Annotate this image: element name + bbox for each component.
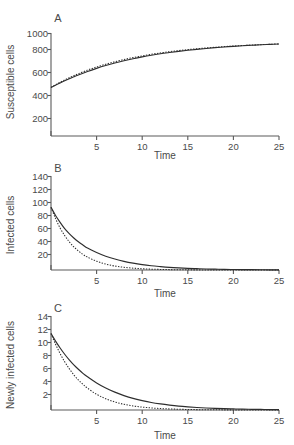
panel-a-ytick-400: 400 — [32, 90, 48, 101]
panel-a-xtick-15: 15 — [183, 141, 194, 152]
panel-b-xtick-20: 20 — [228, 275, 239, 286]
panel-c-ytick-14: 14 — [37, 311, 48, 322]
panel-a-letter: A — [54, 12, 62, 24]
panel-c-curve-dotted — [51, 334, 279, 410]
panel-c-ytick-8: 8 — [43, 350, 48, 361]
panel-b-ytick-80: 80 — [37, 210, 48, 221]
panel-b-plot: B Infected cells 20 40 60 80 100 120 140 — [0, 155, 294, 300]
panel-a-ytick-800: 800 — [32, 44, 48, 55]
panel-a: A Susceptible cells 200 400 600 800 1000 — [0, 0, 294, 160]
panel-b-curve-solid — [51, 207, 279, 270]
panel-a-xtick-20: 20 — [228, 141, 239, 152]
panel-a-y-axis-title: Susceptible cells — [5, 45, 16, 119]
panel-b-ytick-120: 120 — [32, 184, 48, 195]
panel-a-ytick-1000: 1000 — [27, 28, 48, 39]
panel-b-ytick-100: 100 — [32, 197, 48, 208]
panel-c-x-axis-title: Time — [154, 430, 176, 441]
panel-c-plot: C Newly infected cells 2 4 6 8 10 12 14 — [0, 295, 294, 445]
panel-c-xtick-15: 15 — [183, 415, 194, 426]
panel-c-xtick-20: 20 — [228, 415, 239, 426]
panel-c-y-axis-title: Newly infected cells — [5, 321, 16, 409]
panel-b-curve-dotted — [51, 207, 279, 270]
panel-b-letter: B — [54, 162, 61, 174]
panel-a-curve-solid — [51, 44, 279, 87]
panel-a-ytick-200: 200 — [32, 113, 48, 124]
panel-c-ytick-4: 4 — [43, 376, 48, 387]
panel-b-ytick-20: 20 — [37, 249, 48, 260]
panel-c: C Newly infected cells 2 4 6 8 10 12 14 — [0, 295, 294, 445]
panel-b-xtick-25: 25 — [274, 275, 285, 286]
panel-c-letter: C — [54, 302, 62, 314]
panel-a-xtick-25: 25 — [274, 141, 285, 152]
panel-b-xtick-15: 15 — [183, 275, 194, 286]
panel-b: B Infected cells 20 40 60 80 100 120 140 — [0, 155, 294, 300]
panel-c-xtick-25: 25 — [274, 415, 285, 426]
panel-c-ytick-2: 2 — [43, 389, 48, 400]
panel-b-xtick-10: 10 — [137, 275, 148, 286]
panel-a-xtick-10: 10 — [137, 141, 148, 152]
panel-c-ytick-10: 10 — [37, 337, 48, 348]
panel-c-xtick-5: 5 — [94, 415, 99, 426]
panel-b-xtick-5: 5 — [94, 275, 99, 286]
panel-a-curve-dotted — [51, 44, 279, 88]
panel-c-xtick-10: 10 — [137, 415, 148, 426]
panel-a-plot: A Susceptible cells 200 400 600 800 1000 — [0, 0, 294, 160]
panel-c-ytick-12: 12 — [37, 324, 48, 335]
panel-b-ytick-40: 40 — [37, 236, 48, 247]
panel-b-y-axis-title: Infected cells — [5, 196, 16, 254]
panel-c-curve-solid — [51, 334, 279, 410]
panel-c-ytick-6: 6 — [43, 363, 48, 374]
panel-b-ytick-60: 60 — [37, 223, 48, 234]
panel-b-ytick-140: 140 — [32, 171, 48, 182]
figure-container: A Susceptible cells 200 400 600 800 1000 — [0, 0, 294, 445]
panel-a-xtick-5: 5 — [94, 141, 99, 152]
panel-a-ytick-600: 600 — [32, 67, 48, 78]
